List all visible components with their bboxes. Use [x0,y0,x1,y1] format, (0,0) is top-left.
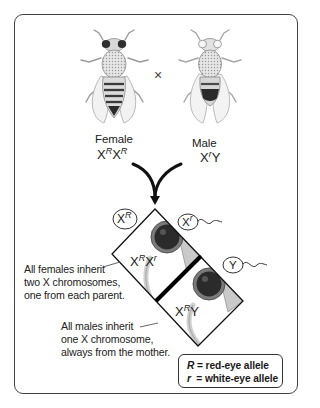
cross-symbol: × [154,67,162,83]
male-offspring-genotype: XRY [175,305,199,319]
male-note-line-3: always from the mother. [61,346,170,359]
legend-row-red: R = red-eye allele [187,359,282,372]
female-note-line-1: All females inherit [24,263,125,276]
allele-legend: R = red-eye allele r = white-eye allele [178,354,283,388]
female-offspring-genotype: XRXr [130,255,157,269]
female-offspring-note: All females inherit two X chromosomes, o… [24,263,125,302]
female-genotype: XRXR [97,148,127,162]
female-label: Female [95,133,133,146]
sperm-y-genotype: Y [229,258,237,272]
male-genotype: XrY [200,151,220,165]
female-note-line-3: one from each parent. [24,289,125,302]
female-fly-icon [81,30,148,123]
male-offspring-note: All males inherit one X chromosome, alwa… [61,320,170,359]
male-note-line-2: one X chromosome, [61,333,170,346]
legend-row-white: r = white-eye allele [187,372,282,385]
arrow-head-icon [150,196,160,205]
egg-genotype: XR [117,212,132,226]
male-label: Male [192,137,217,150]
male-note-line-1: All males inherit [61,320,170,333]
female-note-line-2: two X chromosomes, [24,276,125,289]
male-fly-icon [179,30,241,123]
cross-arrow-icon [133,164,181,198]
sperm-xr-genotype: Xr [182,215,193,229]
